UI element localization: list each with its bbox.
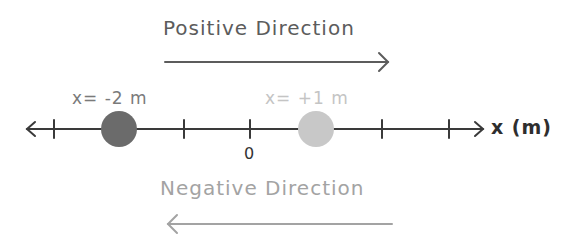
number-line-diagram <box>0 0 586 251</box>
positive-direction-arrow-icon <box>165 53 388 71</box>
object-b-dot <box>298 111 334 147</box>
object-a-dot <box>101 111 137 147</box>
x-axis-line <box>27 120 483 138</box>
negative-direction-arrow-icon <box>168 215 392 233</box>
